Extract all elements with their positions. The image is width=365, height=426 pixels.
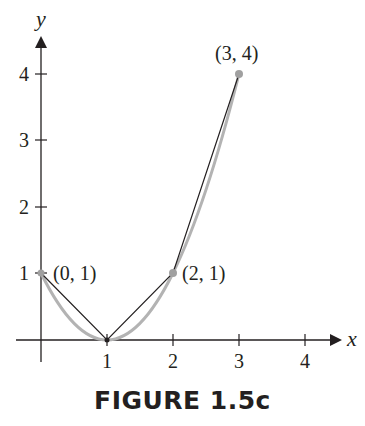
y-tick-label-1: 1	[19, 262, 29, 284]
x-tick-label-3: 3	[234, 350, 244, 372]
point-3-4	[235, 70, 243, 78]
polygonal-approximation	[41, 74, 239, 340]
point-2-1	[169, 269, 177, 277]
parabola-curve	[41, 74, 239, 340]
label-point-0-1: (0, 1)	[53, 262, 96, 285]
y-axis-arrow-icon	[35, 36, 47, 48]
y-tick-label-4: 4	[19, 63, 29, 85]
figure-canvas: 1 2 3 4 1 2 3 4 x y (0, 1) (2, 1) (3, 4)	[0, 0, 365, 426]
y-axis-label: y	[34, 6, 46, 31]
point-1-0	[105, 338, 110, 343]
figure-caption: FIGURE 1.5c	[0, 386, 365, 415]
label-point-3-4: (3, 4)	[215, 42, 258, 65]
x-tick-label-2: 2	[168, 350, 178, 372]
x-axis-arrow-icon	[330, 334, 342, 346]
y-tick-label-2: 2	[19, 196, 29, 218]
label-point-2-1: (2, 1)	[182, 262, 225, 285]
y-tick-label-3: 3	[19, 129, 29, 151]
x-tick-label-1: 1	[102, 350, 112, 372]
x-tick-label-4: 4	[300, 350, 310, 372]
point-0-1	[38, 270, 45, 277]
x-axis-label: x	[346, 326, 357, 351]
